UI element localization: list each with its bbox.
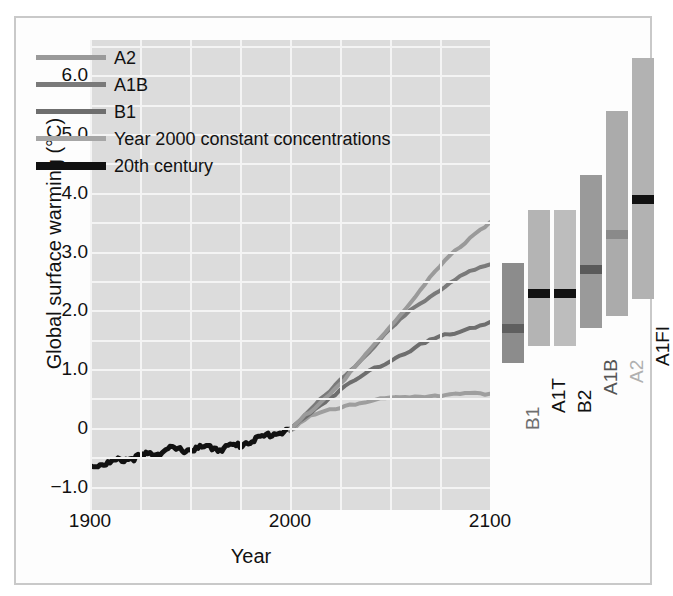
legend-item[interactable]: B1 xyxy=(36,98,391,125)
bar-range xyxy=(502,263,524,363)
legend-swatch-a1b xyxy=(36,82,106,87)
legend-label: B1 xyxy=(114,103,136,121)
y-tick-label: 4.0 xyxy=(22,182,88,204)
scenario-bar-a1t[interactable]: A1T xyxy=(528,40,550,510)
legend-swatch-a2 xyxy=(36,55,106,60)
bar-best-estimate xyxy=(580,265,602,274)
bar-best-estimate xyxy=(632,195,654,204)
bar-range xyxy=(606,111,628,317)
scenario-range-bars: B1A1TB2A1BA2A1FI xyxy=(490,40,654,510)
legend-swatch-20th-century xyxy=(36,162,106,170)
scenario-bar-b2[interactable]: B2 xyxy=(554,40,576,510)
scenario-bar-b1[interactable]: B1 xyxy=(502,40,524,510)
legend-swatch-year-2000-constant-concentrations xyxy=(36,136,106,141)
bar-best-estimate xyxy=(606,230,628,239)
legend-item[interactable]: A2 xyxy=(36,44,391,71)
legend-label: Year 2000 constant concentrations xyxy=(114,130,391,148)
y-tick-label: 3.0 xyxy=(22,241,88,263)
y-tick-label: 0 xyxy=(22,417,88,439)
scenario-bar-a2[interactable]: A2 xyxy=(606,40,628,510)
legend-label: A2 xyxy=(114,49,136,67)
bar-best-estimate xyxy=(502,324,524,333)
legend-item[interactable]: 20th century xyxy=(36,152,391,179)
legend-swatch-b1 xyxy=(36,109,106,114)
bar-range xyxy=(554,210,576,345)
scenario-bar-a1b[interactable]: A1B xyxy=(580,40,602,510)
bar-range xyxy=(580,175,602,328)
bar-range xyxy=(632,58,654,299)
warming-projection-chart: Global surface warming (°C) 6.05.04.03.0… xyxy=(16,18,654,587)
x-tick-label: 2000 xyxy=(269,510,311,532)
bar-best-estimate xyxy=(554,289,576,298)
x-tick-label: 2100 xyxy=(469,510,511,532)
scenario-bar-a1fi[interactable]: A1FI xyxy=(632,40,654,510)
chart-legend: A2A1BB1Year 2000 constant concentrations… xyxy=(36,44,391,179)
gridline-vertical xyxy=(440,40,442,510)
bar-best-estimate xyxy=(528,289,550,298)
bar-label: A1FI xyxy=(653,325,672,365)
y-tick-label: 2.0 xyxy=(22,299,88,321)
x-axis-title: Year xyxy=(16,545,486,568)
bar-range xyxy=(528,210,550,345)
y-tick-label: −1.0 xyxy=(22,476,88,498)
legend-label: 20th century xyxy=(114,157,213,175)
legend-label: A1B xyxy=(114,76,148,94)
legend-item[interactable]: A1B xyxy=(36,71,391,98)
y-tick-label: 1.0 xyxy=(22,358,88,380)
figure-frame: Global surface warming (°C) 6.05.04.03.0… xyxy=(14,16,652,585)
x-tick-label: 1900 xyxy=(69,510,111,532)
legend-item[interactable]: Year 2000 constant concentrations xyxy=(36,125,391,152)
